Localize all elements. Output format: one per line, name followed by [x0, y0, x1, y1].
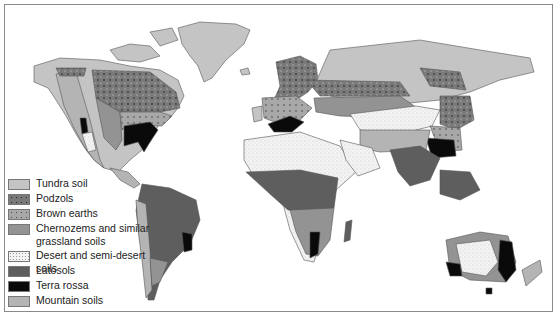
legend-label: Tundra soil	[36, 177, 88, 190]
legend-item-brown-earths: Brown earths	[8, 207, 168, 221]
legend-swatch-chernozems	[8, 224, 30, 235]
legend-swatch-latosols	[8, 266, 30, 277]
legend-swatch-terra-rossa	[8, 281, 30, 292]
legend-label: Podzols	[36, 192, 73, 205]
legend-item-desert: Desert and semi-desert soils	[8, 249, 168, 263]
legend-swatch-tundra	[8, 179, 30, 190]
legend-swatch-brown-earths	[8, 209, 30, 220]
legend-swatch-podzols	[8, 194, 30, 205]
map-legend: Tundra soil Podzols Brown earths Chernoz…	[8, 177, 168, 309]
legend-swatch-desert	[8, 251, 30, 262]
region-greenland	[178, 22, 250, 82]
legend-item-chernozems: Chernozems and similar grassland soils	[8, 222, 168, 248]
legend-item-tundra: Tundra soil	[8, 177, 168, 191]
legend-swatch-mountain	[8, 296, 30, 307]
legend-label: Chernozems and similar grassland soils	[36, 222, 158, 248]
legend-item-mountain: Mountain soils	[8, 294, 168, 308]
legend-label: Brown earths	[36, 207, 98, 220]
legend-label: Terra rossa	[36, 279, 89, 292]
legend-item-terra-rossa: Terra rossa	[8, 279, 168, 293]
legend-label: Latosols	[36, 264, 75, 277]
legend-label: Mountain soils	[36, 294, 103, 307]
legend-item-podzols: Podzols	[8, 192, 168, 206]
